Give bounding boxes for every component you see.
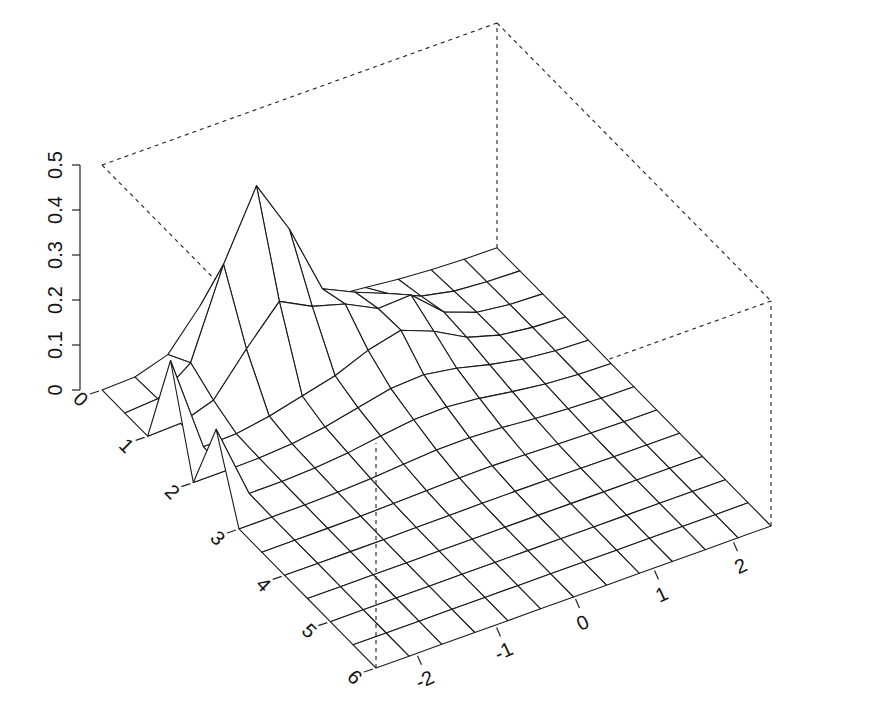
box-edge	[497, 23, 771, 301]
x-tick-label: 3	[206, 526, 229, 549]
y-tick-label: 2	[731, 554, 750, 579]
x-tick-label: 6	[343, 665, 366, 688]
z-tick-label: 0.4	[44, 196, 66, 224]
z-tick-label: 0.2	[44, 286, 66, 314]
x-tick-label: 2	[161, 480, 184, 503]
x-tick-label: 0	[69, 387, 92, 410]
y-tick-label: 0	[573, 610, 592, 635]
y-tick-label: -1	[491, 637, 516, 664]
y-tick	[655, 571, 659, 580]
z-tick-label: 0.1	[44, 331, 66, 359]
y-tick	[418, 656, 422, 665]
x-tick-label: 4	[252, 573, 275, 596]
surface-mesh	[102, 186, 771, 668]
z-tick-label: 0.5	[44, 151, 66, 179]
y-tick	[497, 627, 501, 636]
z-tick-label: 0.3	[44, 241, 66, 269]
x-tick-label: 5	[298, 619, 321, 642]
z-tick-label: 0	[44, 384, 66, 395]
y-tick-label: -2	[412, 666, 437, 693]
x-tick-label: 1	[115, 434, 138, 457]
y-tick-label: 1	[652, 582, 671, 607]
y-tick	[734, 542, 738, 551]
box-edge	[102, 23, 497, 165]
surface-plot: 00.10.20.30.40.50123456-2-1012	[0, 0, 883, 721]
y-tick	[576, 599, 580, 608]
